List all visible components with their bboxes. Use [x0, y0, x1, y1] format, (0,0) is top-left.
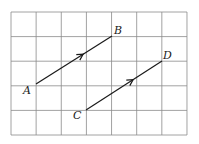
vector-grid-diagram: A B C D	[0, 0, 199, 144]
point-label-c: C	[73, 109, 82, 122]
vector-ab	[36, 36, 112, 84]
point-label-a: A	[22, 84, 31, 97]
vector-ab-line	[36, 36, 112, 84]
arrowhead-cd-icon	[126, 80, 133, 86]
arrowhead-ab-icon	[76, 54, 83, 60]
point-label-d: D	[162, 49, 172, 62]
grid	[11, 12, 187, 135]
point-label-b: B	[113, 24, 122, 37]
